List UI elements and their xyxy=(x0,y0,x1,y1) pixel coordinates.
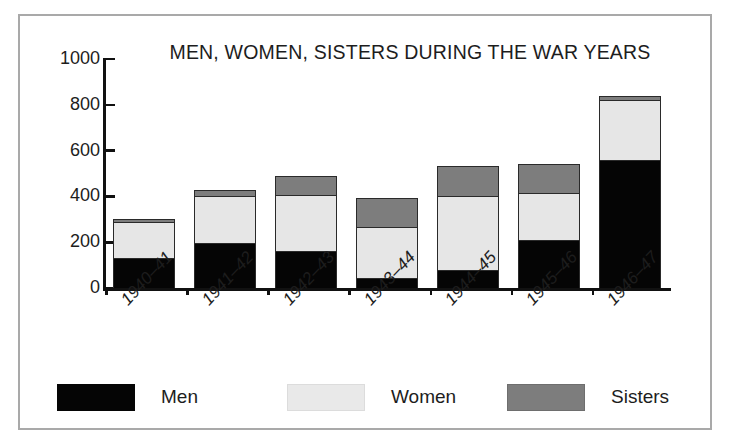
bar-segment-women[interactable] xyxy=(194,196,256,243)
legend-label-sisters: Sisters xyxy=(611,386,669,408)
y-axis-tick-label: 800 xyxy=(44,94,100,115)
legend-label-women: Women xyxy=(391,386,456,408)
bar-segment-women[interactable] xyxy=(275,195,337,251)
y-axis-tick-label: 200 xyxy=(44,231,100,252)
bar-segment-sisters[interactable] xyxy=(275,176,337,195)
bar-segment-sisters[interactable] xyxy=(518,164,580,193)
x-axis-tick xyxy=(105,288,108,295)
x-axis-tick xyxy=(430,288,433,295)
legend-swatch-women xyxy=(287,384,365,411)
bar-segment-sisters[interactable] xyxy=(599,96,661,101)
legend-label-men: Men xyxy=(161,386,198,408)
x-axis-tick xyxy=(186,288,189,295)
x-axis-tick xyxy=(348,288,351,295)
legend-swatch-sisters xyxy=(507,384,585,411)
legend-item-women[interactable]: Women xyxy=(287,383,456,411)
chart-plot-area: MEN, WOMEN, SISTERS DURING THE WAR YEARS… xyxy=(0,0,731,446)
x-axis-tick xyxy=(511,288,514,295)
y-axis-tick-label: 600 xyxy=(44,140,100,161)
bar-segment-sisters[interactable] xyxy=(437,166,499,197)
legend-item-sisters[interactable]: Sisters xyxy=(507,383,669,411)
bar-segment-sisters[interactable] xyxy=(194,190,256,197)
legend-item-men[interactable]: Men xyxy=(57,383,198,411)
x-axis-tick xyxy=(592,288,595,295)
chart-page: MEN, WOMEN, SISTERS DURING THE WAR YEARS… xyxy=(0,0,731,446)
bar-segment-sisters[interactable] xyxy=(356,198,418,228)
bar-segment-women[interactable] xyxy=(518,193,580,240)
y-axis-tick-label: 1000 xyxy=(44,48,100,69)
bar-segment-sisters[interactable] xyxy=(113,219,175,221)
bars-layer xyxy=(103,59,671,288)
y-axis-tick-label: 400 xyxy=(44,185,100,206)
bar-segment-women[interactable] xyxy=(599,100,661,160)
x-axis-tick xyxy=(267,288,270,295)
legend-swatch-men xyxy=(57,384,135,411)
chart-legend: MenWomenSisters xyxy=(57,383,677,413)
y-axis-tick-label: 0 xyxy=(44,277,100,298)
